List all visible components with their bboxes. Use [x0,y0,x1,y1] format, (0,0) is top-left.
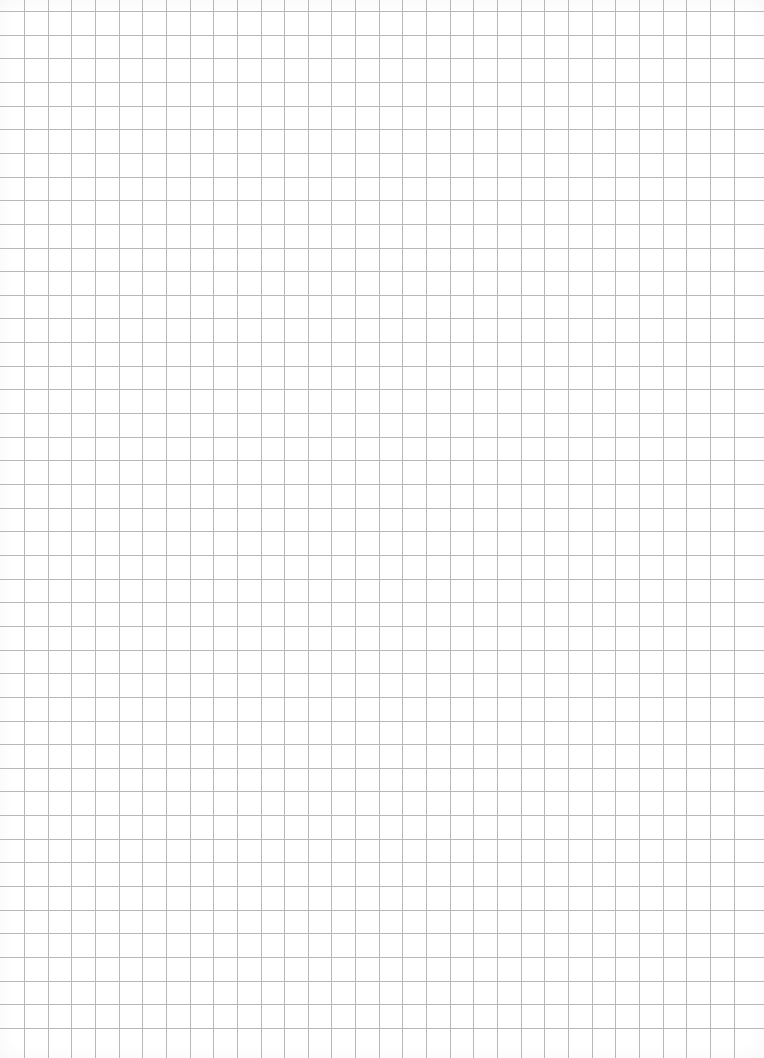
grid-lines [0,0,764,1058]
grid-paper-sheet [0,0,764,1058]
